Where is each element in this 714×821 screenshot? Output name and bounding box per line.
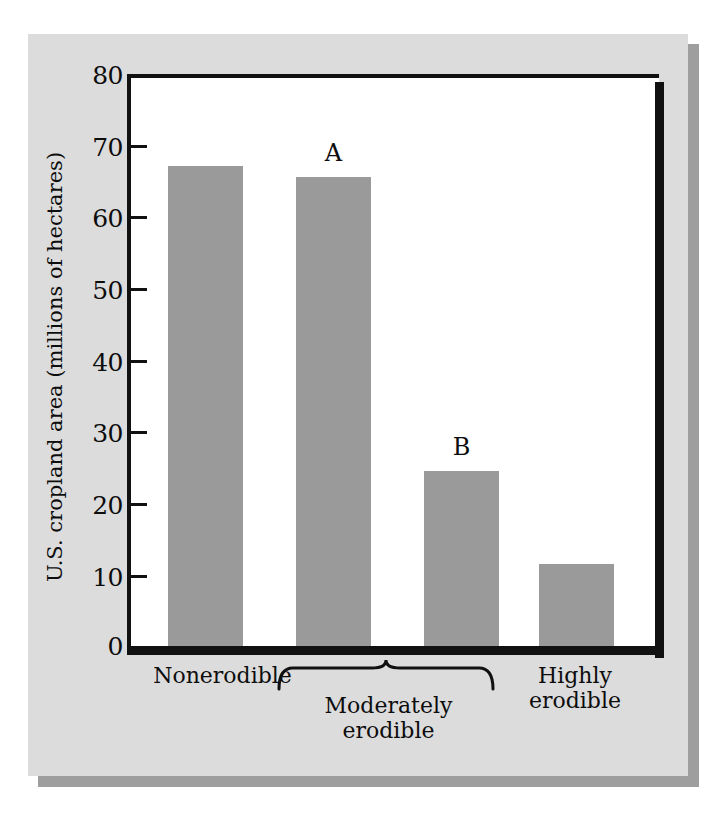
bar-letter-b: B	[424, 433, 499, 461]
x-label-moderately-erodible: Moderately erodible	[296, 694, 481, 743]
x-label-highly-line1: Highly	[510, 664, 640, 689]
y-tick-10	[131, 575, 147, 578]
bar-highly-erodible	[539, 564, 614, 646]
y-tick-50	[131, 288, 147, 291]
bar-moderately-a	[296, 177, 371, 646]
bar-moderately-b	[424, 471, 499, 646]
panel-drop-shadow-right	[688, 44, 699, 786]
y-tick-40	[131, 360, 147, 363]
y-axis-title: U.S. cropland area (millions of hectares…	[43, 107, 67, 627]
bar-letter-a: A	[296, 139, 371, 167]
panel-drop-shadow-bottom	[38, 776, 699, 787]
y-tick-label-0: 0	[37, 632, 123, 661]
x-label-highly-line2: erodible	[510, 689, 640, 714]
x-axis-line	[127, 646, 664, 655]
x-label-moderately-line2: erodible	[296, 719, 481, 744]
y-tick-20	[131, 503, 147, 506]
y-tick-label-80: 80	[37, 61, 123, 90]
x-label-moderately-line1: Moderately	[296, 694, 481, 719]
x-label-highly-erodible: Highly erodible	[510, 664, 640, 713]
y-tick-70	[131, 145, 147, 148]
y-tick-60	[131, 216, 147, 219]
plot-frame-shadow-right	[655, 82, 664, 658]
x-label-nonerodible: Nonerodible	[130, 664, 315, 689]
y-tick-30	[131, 431, 147, 434]
bar-nonerodible	[168, 166, 243, 646]
